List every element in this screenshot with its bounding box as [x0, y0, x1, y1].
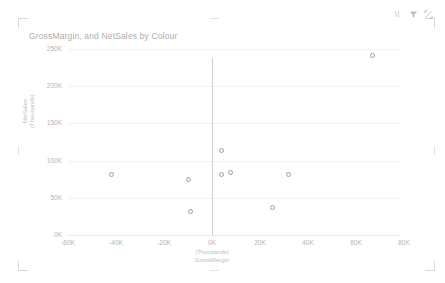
x-axis-title-units: (Thousands) [195, 249, 229, 255]
zero-reference-line [212, 58, 213, 235]
x-axis-title-field: GrossMargin [195, 257, 229, 263]
scatter-point[interactable] [286, 172, 291, 177]
x-axis-tick-label: 0K [208, 239, 216, 246]
x-axis-tick-label: 60K [350, 239, 362, 246]
x-axis-title: (Thousands) GrossMargin [195, 248, 229, 264]
scatter-point[interactable] [370, 53, 375, 58]
y-axis-title-field: NetSales [22, 94, 29, 128]
scatter-point[interactable] [109, 172, 114, 177]
gridline [67, 161, 400, 162]
scatter-point[interactable] [219, 172, 224, 177]
scatter-point[interactable] [228, 170, 233, 175]
x-axis-tick-label: -40K [109, 239, 123, 246]
powerbi-scatter-visual[interactable]: GrossMargin, and NetSales by Colour 0K50… [0, 0, 445, 283]
gridline [67, 198, 400, 199]
y-axis-tick-label: 50K [2, 194, 62, 201]
y-axis-title: NetSales (Thousands) [22, 94, 36, 128]
plot-area[interactable]: 0K50K100K150K200K250K -60K-40K-20K0K20K4… [0, 0, 445, 283]
scatter-point[interactable] [186, 177, 191, 182]
x-axis-baseline [67, 235, 400, 236]
y-axis-tick-label: 250K [2, 45, 62, 52]
gridline [67, 49, 400, 50]
x-axis-tick-label: -60K [61, 239, 75, 246]
x-axis-tick-label: 80K [398, 239, 410, 246]
y-axis-tick-label: 100K [2, 157, 62, 164]
scatter-point[interactable] [188, 209, 193, 214]
scatter-point[interactable] [219, 148, 224, 153]
y-axis-tick-label: 200K [2, 82, 62, 89]
gridline [67, 86, 400, 87]
x-axis-tick-label: 40K [302, 239, 314, 246]
gridline [67, 123, 400, 124]
x-axis-tick-label: 20K [254, 239, 266, 246]
x-axis-tick-label: -20K [157, 239, 171, 246]
scatter-point[interactable] [270, 205, 275, 210]
y-axis-title-units: (Thousands) [29, 94, 36, 128]
y-axis-tick-label: 0K [2, 231, 62, 238]
